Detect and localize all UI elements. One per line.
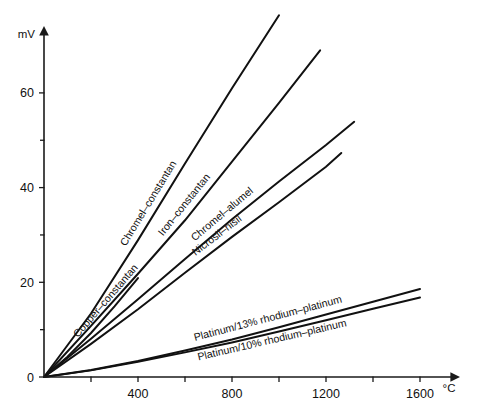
x-axis-tick-labels: 40080012001600 bbox=[128, 387, 434, 401]
y-tick-label: 60 bbox=[20, 86, 34, 100]
series-label: Chromel–constantan bbox=[117, 158, 178, 248]
x-tick-label: 400 bbox=[128, 387, 149, 401]
x-axis-title: °C bbox=[443, 382, 456, 394]
x-tick-label: 1600 bbox=[406, 387, 434, 401]
y-tick-label: 40 bbox=[20, 181, 34, 195]
y-tick-label: 20 bbox=[20, 276, 34, 290]
chart-canvas: 0204060 40080012001600 Chromel–constanta… bbox=[0, 0, 478, 411]
y-tick-label: 0 bbox=[27, 371, 34, 385]
series-label: Platinum/10% rhodium–platinum bbox=[196, 316, 347, 362]
thermocouple-emf-chart: 0204060 40080012001600 Chromel–constanta… bbox=[0, 0, 478, 411]
y-axis-tick-labels: 0204060 bbox=[20, 86, 34, 384]
x-tick-label: 1200 bbox=[312, 387, 340, 401]
y-axis-title: mV bbox=[18, 28, 36, 40]
x-tick-label: 800 bbox=[222, 387, 243, 401]
